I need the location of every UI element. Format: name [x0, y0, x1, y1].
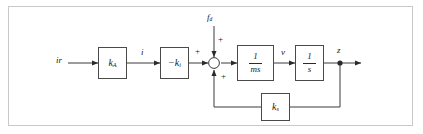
sum-sign-left: + [195, 47, 200, 56]
signal-label-velocity: v [281, 48, 285, 57]
block-amplifier: kA [98, 47, 127, 79]
signal-label-current: i [141, 48, 144, 57]
block-mass-label: 1 ms [249, 52, 262, 73]
block-integrator: 1 s [295, 45, 324, 81]
signal-label-output: z [337, 46, 341, 55]
block-feedback-gain: ks [261, 93, 290, 121]
block-force-gain-label: −ki [168, 57, 181, 68]
sum-sign-top: + [218, 35, 223, 44]
block-integrator-label: 1 s [303, 52, 316, 73]
sum-sign-bottom: + [221, 72, 226, 81]
block-force-gain: −ki [160, 47, 189, 79]
block-diagram-figure: kA −ki 1 ms 1 s ks ir i fd v z + + + [0, 0, 423, 134]
block-amplifier-label: kA [108, 57, 116, 68]
signal-label-input: ir [56, 56, 62, 65]
signal-label-disturbance: fd [207, 13, 212, 23]
block-feedback-gain-label: ks [272, 101, 279, 112]
block-mass: 1 ms [237, 45, 274, 81]
